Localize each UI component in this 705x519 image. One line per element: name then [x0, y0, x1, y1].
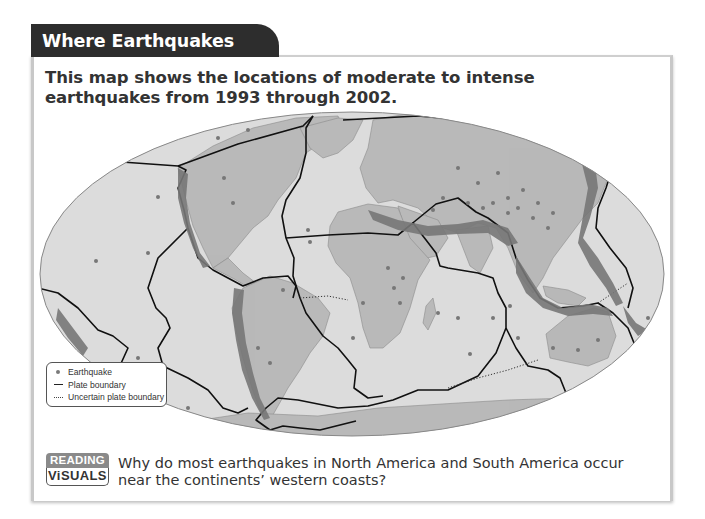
map-legend: Earthquake Plate boundary Uncertain plat… — [46, 362, 167, 407]
figure-caption: This map shows the locations of moderate… — [45, 68, 625, 108]
dot-icon — [53, 370, 63, 374]
reading-visuals-badge: READING ViSUALS — [46, 453, 109, 486]
dotted-line-icon — [53, 397, 63, 398]
figure-title: Where Earthquakes Occur — [31, 24, 279, 57]
badge-bottom: ViSUALS — [46, 468, 109, 486]
legend-label: Uncertain plate boundary — [68, 392, 164, 402]
solid-line-icon — [53, 384, 63, 385]
legend-label: Earthquake — [68, 367, 112, 377]
legend-label: Plate boundary — [68, 380, 126, 390]
legend-earthquake: Earthquake — [53, 366, 166, 379]
legend-plate-boundary: Plate boundary — [53, 379, 166, 392]
reading-visuals-question: Why do most earthquakes in North America… — [118, 455, 658, 489]
legend-uncertain-boundary: Uncertain plate boundary — [53, 391, 166, 404]
badge-top: READING — [46, 453, 109, 468]
